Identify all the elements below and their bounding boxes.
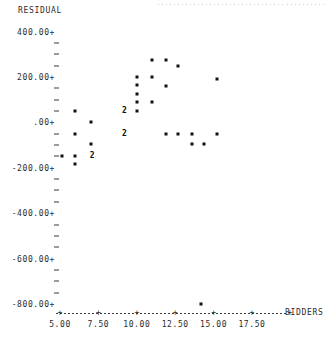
- scatter-point: [74, 163, 77, 166]
- x-axis-major-tick: +: [211, 309, 216, 317]
- scatter-point: [89, 142, 92, 145]
- x-axis-major-tick: +: [250, 309, 255, 317]
- scatter-point-multiple: 2: [122, 130, 127, 138]
- scatter-point: [200, 303, 203, 306]
- scatter-point: [74, 155, 77, 158]
- scatter-point: [177, 132, 180, 135]
- scatter-point: [164, 132, 167, 135]
- scatter-point: [164, 58, 167, 61]
- scatter-point: [135, 100, 138, 103]
- scatter-point: [74, 109, 77, 112]
- scatter-point-multiple: 2: [122, 107, 127, 115]
- x-axis-major-tick: +: [173, 309, 178, 317]
- x-axis-tick-label: 10.00: [123, 320, 150, 329]
- x-axis-tick-label: 5.00: [49, 320, 71, 329]
- scatter-point: [151, 58, 154, 61]
- x-axis-tick-label: 7.50: [88, 320, 110, 329]
- scatter-point: [60, 155, 63, 158]
- scatter-point: [215, 132, 218, 135]
- scatter-point: [151, 100, 154, 103]
- scatter-point-multiple: 2: [90, 152, 95, 160]
- scatter-point: [151, 75, 154, 78]
- residual-plot-figure: RESIDUAL BIDDERS 400.00+200.00+.00+-200.…: [0, 0, 327, 351]
- x-axis-tick-label: 17.50: [238, 320, 265, 329]
- x-axis-tick-label: 12.50: [162, 320, 189, 329]
- x-axis-end-tick: +: [288, 309, 293, 317]
- scatter-point: [89, 121, 92, 124]
- scatter-point: [135, 83, 138, 86]
- scatter-plot-area: 222: [0, 0, 327, 351]
- scatter-point: [74, 132, 77, 135]
- scatter-point: [164, 85, 167, 88]
- scatter-point: [191, 132, 194, 135]
- x-axis-major-tick: +: [96, 309, 101, 317]
- scatter-point: [135, 109, 138, 112]
- x-axis-major-tick: +: [58, 309, 63, 317]
- scatter-point: [191, 142, 194, 145]
- scatter-point: [203, 142, 206, 145]
- x-axis-major-tick: +: [134, 309, 139, 317]
- scatter-point: [215, 78, 218, 81]
- scatter-point: [135, 92, 138, 95]
- x-axis-tick-label: 15.00: [200, 320, 227, 329]
- scatter-point: [135, 75, 138, 78]
- scatter-point: [177, 64, 180, 67]
